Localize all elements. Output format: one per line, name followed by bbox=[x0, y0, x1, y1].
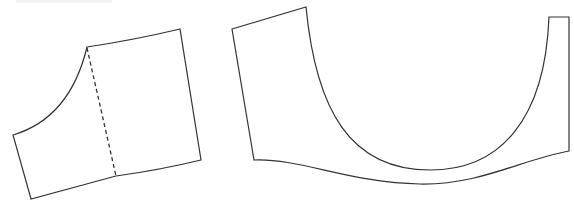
left-piece-dashed-line bbox=[87, 48, 116, 176]
pattern-diagram bbox=[0, 0, 574, 202]
right-pattern-piece bbox=[232, 7, 569, 184]
left-pattern-piece bbox=[13, 29, 201, 199]
